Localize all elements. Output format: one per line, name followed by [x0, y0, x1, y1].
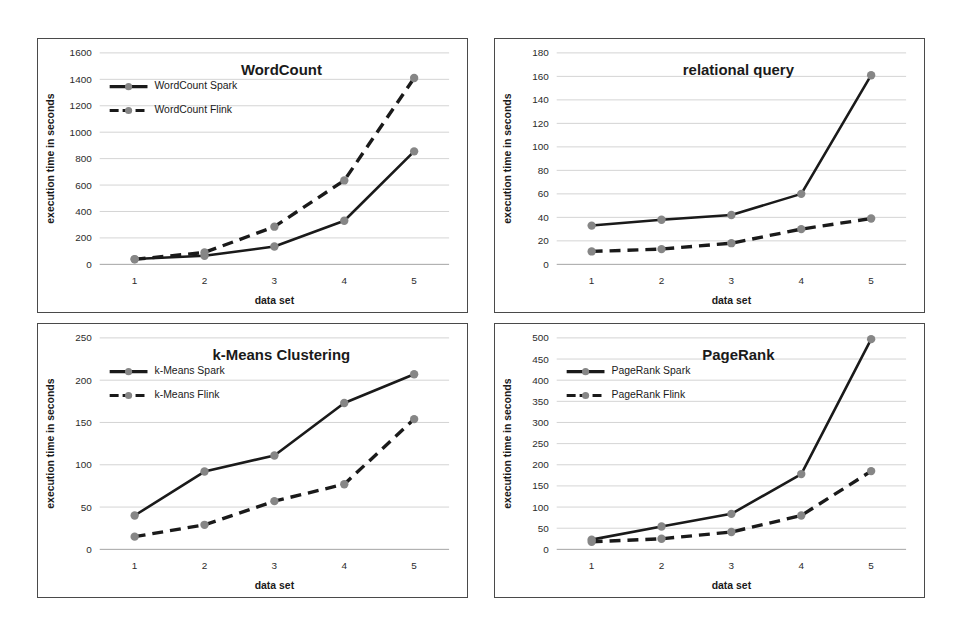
y-tick-label: 150: [75, 417, 92, 428]
data-point: [270, 223, 278, 231]
data-point: [587, 538, 595, 546]
y-tick-label: 300: [532, 417, 549, 428]
data-point: [657, 535, 665, 543]
legend-pagerank: PageRank SparkPageRank Flink: [567, 365, 691, 400]
series-line-relational-query-0: [592, 75, 871, 225]
data-point: [657, 216, 665, 224]
y-axis-ticks-pagerank: 050100150200250300350400450500: [532, 332, 549, 554]
legend-swatch-marker: [125, 392, 132, 399]
legend-swatch-marker: [582, 392, 589, 399]
x-tick-label: 2: [659, 560, 665, 571]
x-tick-label: 2: [202, 275, 208, 286]
y-tick-label: 80: [538, 165, 550, 176]
y-tick-label: 450: [532, 354, 549, 365]
data-point: [410, 147, 418, 155]
chart-panel-pagerank: 05010015020025030035040045050012345data …: [494, 323, 925, 598]
y-tick-label: 250: [75, 332, 92, 343]
chart-canvas-k-means-clustering: 05010015020025012345data setexecution ti…: [38, 324, 467, 597]
chart-title-k-means-clustering: k-Means Clustering: [213, 347, 351, 363]
y-tick-label: 100: [532, 502, 549, 513]
y-tick-label: 100: [75, 459, 92, 470]
chart-panel-k-means-clustering: 05010015020025012345data setexecution ti…: [37, 323, 468, 598]
data-point: [797, 470, 805, 478]
gridlines-relational-query: [557, 53, 906, 264]
data-point: [340, 217, 348, 225]
y-tick-label: 200: [75, 375, 92, 386]
data-point: [797, 190, 805, 198]
legend-wordcount: WordCount SparkWordCount Flink: [110, 80, 238, 115]
x-tick-label: 5: [411, 560, 417, 571]
legend-label: k-Means Spark: [154, 365, 225, 376]
y-axis-ticks-wordcount: 02004006008001000120014001600: [70, 47, 93, 269]
data-point: [727, 211, 735, 219]
data-point: [130, 511, 138, 519]
legend-label: k-Means Flink: [154, 389, 220, 400]
y-tick-label: 200: [75, 232, 92, 243]
y-tick-label: 140: [532, 94, 549, 105]
x-tick-label: 3: [729, 275, 735, 286]
chart-title-relational-query: relational query: [683, 62, 795, 78]
data-point: [130, 255, 138, 263]
x-tick-label: 4: [342, 275, 348, 286]
y-tick-label: 1400: [70, 74, 93, 85]
y-tick-label: 500: [532, 332, 549, 343]
x-axis-label-pagerank: data set: [712, 580, 752, 591]
y-tick-label: 160: [532, 71, 549, 82]
chart-canvas-relational-query: 02040608010012014016018012345data setexe…: [495, 39, 924, 312]
legend-swatch-marker: [582, 368, 589, 375]
chart-title-wordcount: WordCount: [241, 62, 322, 78]
x-tick-label: 4: [799, 560, 805, 571]
x-axis-ticks-wordcount: 12345: [132, 275, 418, 286]
y-tick-label: 50: [81, 502, 93, 513]
y-tick-label: 120: [532, 118, 549, 129]
x-axis-label-k-means-clustering: data set: [255, 580, 295, 591]
y-axis-ticks-k-means-clustering: 050100150200250: [75, 332, 92, 554]
x-tick-label: 5: [411, 275, 417, 286]
y-tick-label: 1000: [70, 127, 93, 138]
data-point: [200, 521, 208, 529]
legend-swatch-marker: [125, 368, 132, 375]
y-tick-label: 20: [538, 235, 550, 246]
legend-swatch-marker: [125, 83, 132, 90]
y-tick-label: 1600: [70, 47, 93, 58]
y-axis-label-pagerank: execution time in seconds: [502, 378, 513, 508]
y-tick-label: 60: [538, 188, 550, 199]
data-point: [587, 247, 595, 255]
x-axis-ticks-pagerank: 12345: [589, 560, 875, 571]
y-tick-label: 800: [75, 153, 92, 164]
y-tick-label: 350: [532, 396, 549, 407]
chart-panel-wordcount: 0200400600800100012001400160012345data s…: [37, 38, 468, 313]
legend-label: PageRank Spark: [611, 365, 691, 376]
data-point: [797, 511, 805, 519]
y-tick-label: 0: [543, 544, 549, 555]
x-axis-label-relational-query: data set: [712, 295, 752, 306]
x-tick-label: 5: [868, 560, 874, 571]
x-tick-label: 1: [589, 560, 595, 571]
data-point: [270, 242, 278, 250]
x-axis-label-wordcount: data set: [255, 295, 295, 306]
y-tick-label: 0: [543, 259, 549, 270]
data-point: [867, 467, 875, 475]
x-tick-label: 3: [729, 560, 735, 571]
data-point: [200, 467, 208, 475]
y-tick-label: 600: [75, 180, 92, 191]
y-tick-label: 150: [532, 480, 549, 491]
x-tick-label: 1: [132, 560, 138, 571]
data-point: [410, 74, 418, 82]
x-tick-label: 3: [272, 560, 278, 571]
data-point: [867, 335, 875, 343]
y-axis-label-k-means-clustering: execution time in seconds: [45, 378, 56, 508]
x-tick-label: 1: [132, 275, 138, 286]
y-tick-label: 50: [538, 523, 550, 534]
data-point: [727, 510, 735, 518]
legend-k-means-clustering: k-Means Sparkk-Means Flink: [110, 365, 226, 400]
chart-canvas-wordcount: 0200400600800100012001400160012345data s…: [38, 39, 467, 312]
y-tick-label: 180: [532, 47, 549, 58]
x-tick-label: 3: [272, 275, 278, 286]
y-tick-label: 40: [538, 212, 550, 223]
y-tick-label: 1200: [70, 100, 93, 111]
data-point: [270, 451, 278, 459]
y-tick-label: 250: [532, 438, 549, 449]
data-point: [130, 532, 138, 540]
legend-label: PageRank Flink: [611, 389, 685, 400]
